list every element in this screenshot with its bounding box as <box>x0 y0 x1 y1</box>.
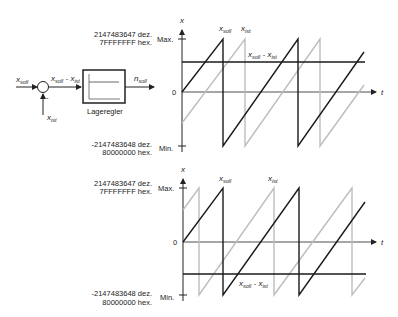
min-hex-label: 80000000 hex. <box>102 148 152 157</box>
zero-label: 0 <box>172 88 176 97</box>
min-dec-label: -2147483648 dez. <box>92 289 152 298</box>
min-label: Min. <box>159 144 173 153</box>
max-label: Max. <box>158 184 174 193</box>
chart-bottom: 2147483647 dez. 7FFFFFFF hex. Max. 0 -21… <box>92 165 384 307</box>
x-axis-label: t <box>381 238 384 247</box>
y-axis-label: x <box>180 165 186 174</box>
block-diagram: xsoll - xist xsoll - xist Lageregler nso… <box>15 70 154 123</box>
controller-label: Lageregler <box>87 107 123 116</box>
ist-label: xist <box>267 174 278 184</box>
input-label: xsoll <box>15 75 29 85</box>
diff-label: xsoll - xist <box>238 279 268 289</box>
ist-label: xist <box>240 24 251 34</box>
soll-label: xsoll <box>218 174 232 184</box>
max-hex-label: 7FFFFFFF hex. <box>100 187 153 196</box>
summing-junction-icon <box>38 82 49 93</box>
x-axis-label: t <box>381 88 384 97</box>
y-axis-label: x <box>179 16 185 25</box>
feedback-label: xist <box>46 113 57 123</box>
minus-sign: - <box>46 93 49 102</box>
diff-label: xsoll - xist <box>247 50 277 60</box>
max-label: Max. <box>157 35 173 44</box>
zero-label: 0 <box>173 238 177 247</box>
overflow-diagram: xsoll - xist xsoll - xist Lageregler nso… <box>0 0 398 317</box>
min-label: Min. <box>160 293 174 302</box>
max-hex-label: 7FFFFFFF hex. <box>100 38 153 47</box>
error-label: xsoll - xist <box>50 74 80 84</box>
output-label: nsoll <box>134 74 147 84</box>
min-hex-label: 80000000 hex. <box>102 298 152 307</box>
soll-label: xsoll <box>218 24 232 34</box>
